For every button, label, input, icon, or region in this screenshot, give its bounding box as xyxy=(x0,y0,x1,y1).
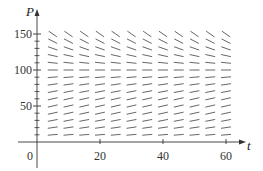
slope-segment xyxy=(79,91,89,93)
slope-segment xyxy=(64,98,74,100)
slope-segment xyxy=(48,47,57,50)
x-axis-arrow-icon xyxy=(239,140,246,145)
slope-segment xyxy=(190,127,200,128)
slope-segment xyxy=(142,77,152,78)
y-axis-arrow-icon xyxy=(35,9,40,16)
slope-segment xyxy=(158,98,168,100)
slope-segment xyxy=(127,112,137,114)
slope-segment xyxy=(158,105,168,107)
slope-segment xyxy=(174,119,184,121)
slope-segment xyxy=(48,119,58,121)
slope-segment xyxy=(79,119,89,121)
slope-segment xyxy=(205,91,215,93)
slope-field-chart: P t 0 204060 50100150 xyxy=(0,0,263,171)
axis-labels: P t 0 xyxy=(25,4,251,163)
slope-segment xyxy=(111,91,121,93)
slope-segment xyxy=(111,127,121,128)
slope-segment xyxy=(174,98,184,100)
slope-segment xyxy=(142,91,152,93)
slope-segment xyxy=(221,77,231,78)
slope-segment xyxy=(96,39,105,44)
slope-segment xyxy=(127,77,137,78)
x-axis-label: t xyxy=(247,138,251,153)
slope-segment xyxy=(111,47,120,50)
y-tick-label: 100 xyxy=(14,63,32,77)
slope-segment xyxy=(127,119,137,121)
slope-segment xyxy=(143,47,152,50)
slope-segment xyxy=(111,39,120,44)
slope-segment xyxy=(79,84,89,85)
slope-segment xyxy=(111,119,121,121)
slope-segment xyxy=(158,77,168,78)
slope-segment xyxy=(190,84,200,85)
slope-segment xyxy=(48,84,58,85)
slope-segment xyxy=(48,134,58,135)
origin-label: 0 xyxy=(27,149,33,163)
x-tick-label: 60 xyxy=(220,149,232,163)
slope-segment xyxy=(95,91,105,93)
slope-segment xyxy=(190,39,199,44)
slope-segment xyxy=(48,105,58,107)
slope-segment xyxy=(64,84,74,85)
slope-segment xyxy=(48,55,58,57)
slope-segment xyxy=(127,127,137,128)
slope-segment xyxy=(127,105,137,107)
slope-segment xyxy=(190,119,200,121)
slope-segment xyxy=(190,62,200,63)
slope-segment xyxy=(111,84,121,85)
slope-segment xyxy=(127,91,137,93)
slope-segment xyxy=(159,31,167,37)
slope-segment xyxy=(64,112,74,114)
slope-segment xyxy=(221,98,231,100)
slope-segment xyxy=(158,62,168,63)
slope-segment xyxy=(222,39,231,44)
y-tick-label: 50 xyxy=(20,99,32,113)
slope-segment xyxy=(95,62,105,63)
slope-segment xyxy=(174,134,184,135)
slope-segment xyxy=(221,55,231,57)
slope-segment xyxy=(64,119,74,121)
slope-segment xyxy=(205,98,215,100)
slope-segment xyxy=(111,77,121,78)
slope-segment xyxy=(80,47,89,50)
slope-segment xyxy=(205,134,215,135)
slope-segment xyxy=(221,47,230,50)
slope-segment xyxy=(158,91,168,93)
y-tick-label: 150 xyxy=(14,27,32,41)
slope-segment xyxy=(205,119,215,121)
slope-segment xyxy=(79,62,89,63)
slope-segment xyxy=(158,119,168,121)
slope-segment xyxy=(48,98,58,100)
slope-segment xyxy=(64,31,72,37)
slope-segment xyxy=(95,112,105,114)
slope-segment xyxy=(174,105,184,107)
slope-segment xyxy=(221,105,231,107)
slope-segment xyxy=(159,39,168,44)
slope-segment xyxy=(111,55,121,57)
slope-segment xyxy=(79,77,89,78)
slope-segment xyxy=(111,98,121,100)
slope-segment xyxy=(190,134,200,135)
slope-segment xyxy=(48,77,58,78)
x-tick-label: 20 xyxy=(94,149,106,163)
slope-segment xyxy=(221,91,231,93)
slope-segment xyxy=(95,127,105,128)
slope-segment xyxy=(64,39,73,44)
slope-segment xyxy=(48,112,58,114)
slope-segment xyxy=(127,47,136,50)
slope-segment xyxy=(190,31,198,37)
slope-segment xyxy=(158,127,168,128)
slope-segment xyxy=(174,62,184,63)
slope-segment xyxy=(142,84,152,85)
slope-segment xyxy=(174,91,184,93)
slope-segment xyxy=(205,84,215,85)
slope-segment xyxy=(64,127,74,128)
slope-segment xyxy=(142,134,152,135)
slope-segment xyxy=(95,77,105,78)
slope-segment xyxy=(174,112,184,114)
slope-segment xyxy=(174,47,183,50)
slope-segment xyxy=(158,47,167,50)
slope-segment xyxy=(111,112,121,114)
slope-segment xyxy=(190,98,200,100)
slope-segment xyxy=(205,112,215,114)
